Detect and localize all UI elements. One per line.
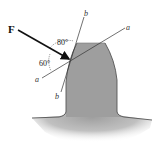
- axis-b-lower-label: b: [55, 92, 59, 101]
- gear-tooth-diagram: F 80° 60° a a b b: [0, 0, 159, 149]
- angle-60-label: 60°: [39, 59, 50, 68]
- angle-80-label: 80°: [57, 38, 68, 47]
- gear-tooth-fill: [66, 43, 123, 117]
- axis-b-upper-label: b: [84, 9, 88, 18]
- axis-a-upper-label: a: [126, 23, 130, 32]
- force-label: F: [8, 23, 15, 35]
- axis-a-lower-label: a: [35, 75, 39, 84]
